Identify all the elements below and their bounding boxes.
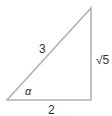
angle-label: α [25,85,32,97]
triangle-diagram: 3 √5 α 2 [0,0,112,116]
opposite-side-label: √5 [96,53,110,67]
hypotenuse-label: 3 [39,42,46,56]
adjacent-side-label: 2 [48,103,55,116]
right-triangle [7,8,91,100]
